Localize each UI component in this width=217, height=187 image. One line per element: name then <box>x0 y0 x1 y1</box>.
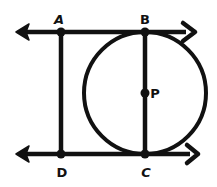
label-C: C <box>141 165 151 180</box>
point-B <box>141 28 150 37</box>
point-D <box>57 150 66 159</box>
label-A: A <box>53 12 64 27</box>
label-D: D <box>57 165 68 180</box>
diagram-svg: A B P D C <box>0 0 217 187</box>
point-P <box>141 89 150 98</box>
point-A <box>57 28 66 37</box>
label-B: B <box>140 12 150 27</box>
label-P: P <box>150 86 160 101</box>
geometry-figure: A B P D C <box>0 0 217 187</box>
point-C <box>141 150 150 159</box>
